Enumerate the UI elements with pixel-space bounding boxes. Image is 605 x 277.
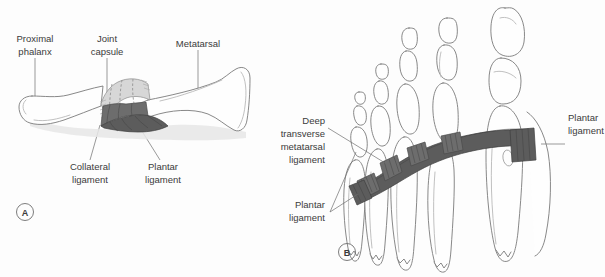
- label-deep-transverse-line2: transverse: [281, 128, 325, 139]
- panel-b-letter: B: [344, 248, 351, 258]
- label-joint-capsule-line1: Joint: [97, 33, 117, 44]
- label-deep-transverse-line1: Deep: [302, 115, 325, 126]
- panel-a-group: Proximal phalanx Joint capsule Metatarsa…: [17, 33, 251, 221]
- label-proximal-phalanx-line2: phalanx: [18, 46, 52, 57]
- proximal-phalanx-bone: [19, 86, 103, 124]
- toe2-metatarsal: [428, 146, 454, 272]
- label-collateral-ligament-line2: ligament: [72, 174, 108, 185]
- toe4-distal-phalanx: [376, 64, 389, 79]
- label-deep-transverse-line3: metatarsal: [281, 141, 325, 152]
- panel-a-letter: A: [22, 208, 29, 218]
- toe4-proximal-phalanx: [371, 106, 390, 146]
- hallux-distal-phalanx: [491, 8, 525, 57]
- anatomy-figure: Proximal phalanx Joint capsule Metatarsa…: [0, 0, 605, 277]
- toe-ray-5: [344, 92, 368, 261]
- ligament-block-mt2: [441, 132, 463, 154]
- toe3-proximal-phalanx: [397, 84, 419, 134]
- label-collateral-ligament-line1: Collateral: [70, 161, 110, 172]
- label-proximal-phalanx-line1: Proximal: [17, 33, 54, 44]
- toe5-metatarsal: [344, 160, 366, 261]
- label-plantar-ligament-a-line2: ligament: [145, 174, 181, 185]
- label-deep-transverse-line4: ligament: [289, 154, 325, 165]
- label-plantar-ligament-b-left-line1: Plantar: [295, 199, 325, 210]
- hallux-proximal-phalanx: [489, 58, 521, 104]
- label-plantar-ligament-b-right-line2: ligament: [568, 125, 604, 136]
- label-metatarsal: Metatarsal: [176, 38, 220, 49]
- label-plantar-ligament-b-left-line2: ligament: [289, 212, 325, 223]
- label-plantar-ligament-b-right-line1: Plantar: [568, 112, 598, 123]
- toe5-proximal-phalanx: [351, 127, 368, 157]
- panel-b-group: Deep transverse metatarsal ligament Plan…: [281, 8, 605, 273]
- toe5-middle-phalanx: [354, 106, 367, 125]
- toe3-middle-phalanx: [400, 51, 418, 81]
- label-plantar-ligament-a-line1: Plantar: [148, 161, 178, 172]
- toe2-distal-phalanx: [439, 18, 458, 43]
- label-joint-capsule-line2: capsule: [91, 46, 124, 57]
- toe3-distal-phalanx: [402, 28, 418, 49]
- toe5-distal-phalanx: [355, 92, 366, 104]
- toe4-middle-phalanx: [374, 81, 389, 104]
